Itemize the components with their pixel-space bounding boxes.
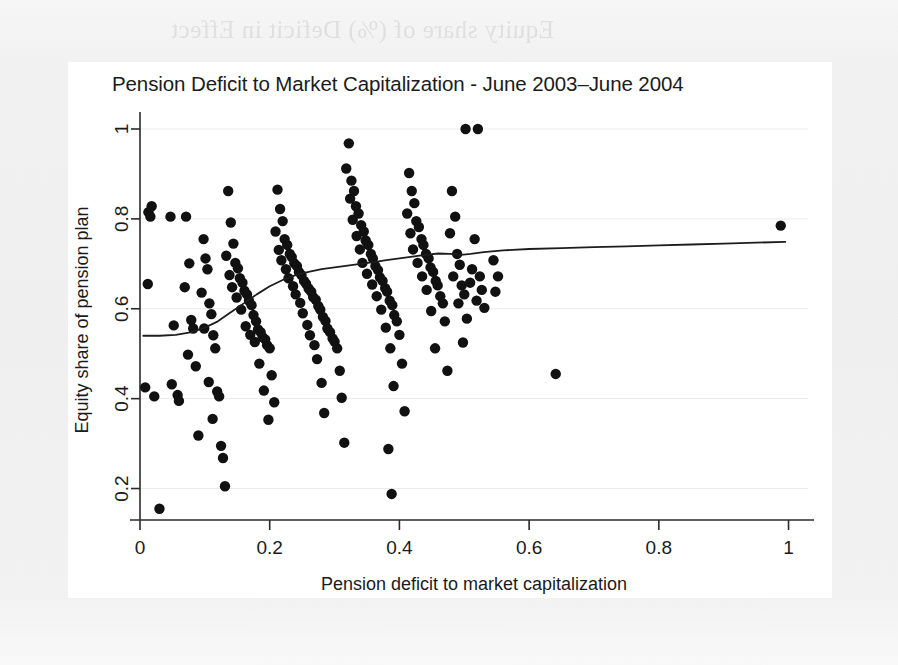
scatter-point (418, 240, 428, 250)
scatter-point (143, 279, 153, 289)
scatter-point (430, 343, 440, 353)
scatter-point (198, 234, 208, 244)
scatter-point (404, 168, 414, 178)
scatter-point (335, 366, 345, 376)
scatter-point (204, 298, 214, 308)
scatter-point (214, 391, 224, 401)
scatter-point (426, 306, 436, 316)
scatter-point (438, 298, 448, 308)
scatter-point (145, 211, 155, 221)
scatter-point (146, 201, 156, 211)
scatter-point (405, 228, 415, 238)
scatter-point (193, 430, 203, 440)
scatter-point (409, 198, 419, 208)
scatter-point (475, 271, 485, 281)
scatter-point (776, 220, 786, 230)
scatter-point (204, 377, 214, 387)
scatter-point (218, 453, 228, 463)
scatter-point (302, 320, 312, 330)
scatter-point (397, 358, 407, 368)
scatter-point (382, 286, 392, 296)
scatter-point (332, 343, 342, 353)
scatter-point (372, 291, 382, 301)
scatter-point (196, 287, 206, 297)
scatter-point (183, 349, 193, 359)
scatter-point (224, 270, 234, 280)
scatter-point (305, 330, 315, 340)
scatter-point (231, 292, 241, 302)
scatter-point (298, 308, 308, 318)
y-tick-label: 0.8 (112, 206, 133, 232)
scatter-point (407, 186, 417, 196)
x-tick-label: 0.8 (646, 537, 672, 558)
scatter-point (312, 354, 322, 364)
scatter-point (432, 280, 442, 290)
scatter-point (191, 361, 201, 371)
scatter-point (174, 396, 184, 406)
y-tick-label: 0.6 (112, 296, 133, 322)
scatter-point (206, 309, 216, 319)
scatter-point (180, 282, 190, 292)
scatter-point (339, 437, 349, 447)
scatter-point (200, 253, 210, 263)
scatter-point (428, 267, 438, 277)
screenshot-page: Equity share of (%) Deficit in Effect Pe… (0, 0, 898, 665)
scatter-points-group (140, 124, 786, 514)
axes-group (130, 112, 814, 520)
scatter-point (351, 231, 361, 241)
scatter-point (223, 186, 233, 196)
scatter-point (399, 406, 409, 416)
scatter-point (479, 303, 489, 313)
scatter-point (250, 337, 260, 347)
y-tick-label: 0.2 (112, 475, 133, 501)
scatter-point (265, 343, 275, 353)
y-tick-label: 1 (112, 124, 133, 135)
scatter-point (392, 316, 402, 326)
scatter-point (272, 184, 282, 194)
x-axis-title: Pension deficit to market capitalization (321, 574, 627, 594)
scatter-point (450, 211, 460, 221)
figure-panel: Pension Deficit to Market Capitalization… (68, 62, 832, 598)
scatter-point (469, 234, 479, 244)
scatter-point (207, 414, 217, 424)
scatter-point (453, 298, 463, 308)
scatter-point (184, 258, 194, 268)
scatter-point (227, 282, 237, 292)
scatter-point (473, 124, 483, 134)
scatter-point (263, 415, 273, 425)
scatter-point (488, 255, 498, 265)
scatter-point (165, 211, 175, 221)
scatter-point (254, 358, 264, 368)
scatter-point (477, 285, 487, 295)
scatter-point (169, 320, 179, 330)
scatter-point (309, 340, 319, 350)
scatter-point (220, 481, 230, 491)
scatter-point (462, 313, 472, 323)
scatter-point (336, 393, 346, 403)
scatter-point (274, 245, 284, 255)
scatter-point (493, 271, 503, 281)
scatter-point (445, 228, 455, 238)
scatter-point (381, 322, 391, 332)
scatter-point (362, 269, 372, 279)
y-tick-label: 0.4 (112, 385, 133, 412)
scatter-point (442, 366, 452, 376)
scatter-point (421, 285, 431, 295)
scatter-point (210, 343, 220, 353)
scatter-point (259, 385, 269, 395)
x-tick-label: 0.4 (386, 537, 413, 558)
scatter-point (276, 255, 286, 265)
scatter-point (228, 238, 238, 248)
scatter-point (270, 226, 280, 236)
scatter-point (202, 264, 212, 274)
scatter-point (414, 222, 424, 232)
scatter-point (386, 489, 396, 499)
scatter-point (467, 264, 477, 274)
scatter-point (402, 208, 412, 218)
scatter-point (448, 271, 458, 281)
scatter-point (355, 244, 365, 254)
scatter-point (216, 441, 226, 451)
scatter-point (385, 343, 395, 353)
x-tick-label: 0.6 (516, 537, 542, 558)
scatter-point (149, 391, 159, 401)
